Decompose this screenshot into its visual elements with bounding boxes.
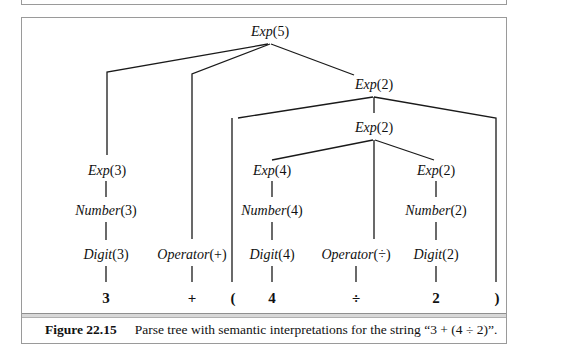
- node-number2: Number(2): [405, 203, 466, 219]
- node-digit3: Digit(3): [83, 247, 128, 263]
- node-exp3: Exp(3): [88, 163, 126, 179]
- edge-exp5-exp3: [107, 44, 268, 155]
- node-number4: Number(4): [241, 203, 302, 219]
- caption-text: Parse tree with semantic interpretations…: [135, 322, 498, 337]
- node-number3: Number(3): [75, 203, 136, 219]
- leaf-divide: ÷: [352, 290, 360, 306]
- leaf-left-paren: (: [231, 290, 236, 306]
- figure-number: Figure 22.15: [45, 322, 117, 337]
- parse-tree-edges: [0, 0, 562, 360]
- node-digit2: Digit(2): [413, 247, 458, 263]
- leaf-4: 4: [268, 290, 276, 306]
- leaf-right-paren: ): [495, 290, 500, 306]
- figure-caption: Figure 22.15Parse tree with semantic int…: [45, 322, 497, 338]
- edge-exp2-lparen-top: [238, 97, 373, 118]
- node-exp2-mid: Exp(2): [355, 120, 393, 136]
- node-operator-plus: Operator(+): [157, 247, 226, 263]
- caption-separator: [22, 313, 506, 318]
- node-exp5: Exp(5): [251, 24, 289, 40]
- leaf-3: 3: [102, 290, 110, 306]
- edge-exp5-exp2: [271, 44, 354, 75]
- node-exp2-right: Exp(2): [417, 163, 455, 179]
- node-operator-div: Operator(÷): [321, 247, 390, 263]
- edge-exp2-exp2right: [375, 140, 434, 160]
- node-exp2-outer: Exp(2): [355, 77, 393, 93]
- edge-exp2-exp4: [272, 140, 373, 160]
- node-exp4: Exp(4): [253, 163, 291, 179]
- leaf-plus: +: [188, 290, 197, 306]
- node-digit4: Digit(4): [249, 247, 294, 263]
- leaf-2: 2: [432, 290, 440, 306]
